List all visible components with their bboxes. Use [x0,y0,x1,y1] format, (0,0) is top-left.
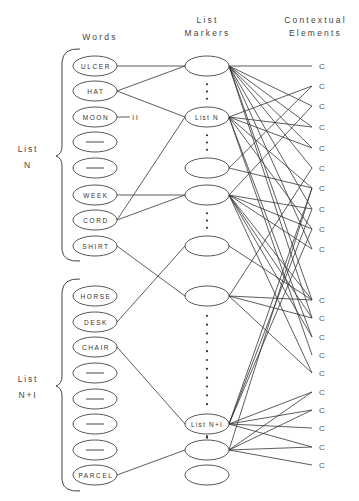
moon-annotation-text: II [132,113,139,122]
word-marker-link [117,91,185,117]
word-label: HAT [87,88,104,95]
association-diagram: ULCERHATMOONWEEKCORDSHIRTHORSEDESKCHAIRP… [0,0,359,501]
ellipsis-dot [206,149,208,151]
contextual-element-c: C [319,144,325,153]
connection-lines [117,66,312,475]
word-marker-link [117,246,185,296]
word-node: PARCEL [73,465,117,485]
ellipsis-dot [206,141,208,143]
word-label: PARCEL [78,472,113,479]
ellipsis-dot [206,332,208,334]
word-node [73,414,117,434]
word-node [73,363,117,383]
ellipsis-dot [206,437,208,439]
ellipsis-dot [206,403,208,405]
marker-context-link [229,410,312,424]
brace-list-n1 [56,279,80,491]
contextual-element-c: C [319,388,325,397]
word-node: ULCER [73,56,117,76]
list-marker-node [185,158,229,178]
marker-context-link [229,195,312,209]
ellipsis-dot [206,212,208,214]
marker-context-link [229,296,312,373]
list-marker-node [185,465,229,485]
marker-context-link [229,246,312,300]
word-node [73,132,117,152]
marker-context-link [229,188,312,424]
word-node: CHAIR [73,337,117,357]
ellipsis-dot [206,359,208,361]
marker-oval [185,185,229,205]
ellipsis-dot [206,98,208,100]
list-marker-nodes: List NList N+I [185,56,229,485]
marker-context-link [229,86,312,168]
marker-context-link [229,392,312,450]
contextual-element-c: C [319,424,325,433]
ellipsis-dot [206,83,208,85]
word-marker-link [117,195,185,220]
word-node [73,440,117,460]
list-marker-node: List N+I [185,414,229,434]
marker-context-link [229,168,312,188]
ellipsis-dot [206,90,208,92]
contextual-element-c: C [319,314,325,323]
contextual-element-c: C [319,369,325,378]
word-nodes: ULCERHATMOONWEEKCORDSHIRTHORSEDESKCHAIRP… [73,56,117,485]
ellipsis-dot [206,324,208,326]
marker-context-link [229,168,312,296]
contextual-element-c: C [319,333,325,342]
marker-context-link [229,450,312,465]
contextual-element-c: C [319,245,325,254]
word-label: CORD [83,217,109,224]
marker-label: List N [195,114,219,121]
marker-context-link [229,410,312,450]
marker-context-link [229,229,312,424]
marker-oval [185,286,229,306]
ellipsis-dot [206,315,208,317]
word-node: DESK [73,312,117,332]
word-marker-link [117,66,185,91]
ellipsis-dots [206,83,208,439]
brace-list-n [56,49,80,261]
contextual-element-c: C [319,102,325,111]
ellipsis-dot [206,219,208,221]
contextual-element-c: C [319,123,325,132]
marker-context-link [229,66,312,318]
word-label: MOON [83,114,110,121]
marker-context-link [229,392,312,424]
contextual-element-c: C [319,296,325,305]
word-label: WEEK [83,192,109,199]
ellipsis-dot [206,227,208,229]
list-marker-node [185,56,229,76]
ellipsis-dot [206,377,208,379]
marker-context-link [229,447,312,450]
ellipsis-dot [206,341,208,343]
marker-label: List N+I [191,421,223,428]
word-label: HORSE [80,293,111,300]
marker-context-link [229,66,312,148]
marker-oval [185,465,229,485]
contextual-element-c: C [319,461,325,470]
contextual-element-c: C [319,443,325,452]
contextual-element-nodes: CCCCCCCCCCCCCCCCCCCC [319,62,325,470]
contextual-element-c: C [319,205,325,214]
list-marker-node [185,440,229,460]
word-node: HORSE [73,286,117,306]
word-label: CHAIR [82,344,110,351]
ellipsis-dot [206,394,208,396]
contextual-element-c: C [319,82,325,91]
word-label: SHIRT [82,243,109,250]
word-label: ULCER [81,63,111,70]
word-node: WEEK [73,185,117,205]
contextual-element-c: C [319,406,325,415]
word-node: CORD [73,210,117,230]
contextual-element-c: C [319,184,325,193]
marker-oval [185,158,229,178]
ellipsis-dot [206,134,208,136]
marker-oval [185,56,229,76]
ellipsis-dot [206,385,208,387]
word-marker-link [117,347,185,424]
word-marker-link [117,246,185,322]
marker-context-link [229,209,312,424]
list-marker-node [185,286,229,306]
